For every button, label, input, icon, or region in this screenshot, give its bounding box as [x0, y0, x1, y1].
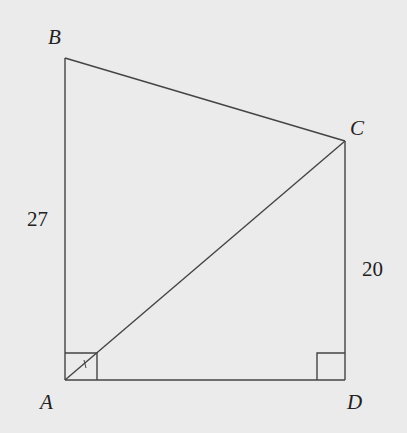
right-angle-marker-d — [317, 353, 345, 380]
vertex-label-a: A — [40, 392, 53, 413]
side-length-cd: 20 — [362, 259, 383, 280]
vertex-label-c: C — [350, 118, 364, 139]
geometry-diagram — [0, 0, 407, 433]
side-length-ab: 27 — [27, 209, 48, 230]
vertex-label-b: B — [48, 27, 61, 48]
diagonal-ac — [65, 141, 345, 380]
segment-bc — [65, 58, 345, 141]
vertex-label-d: D — [347, 392, 362, 413]
